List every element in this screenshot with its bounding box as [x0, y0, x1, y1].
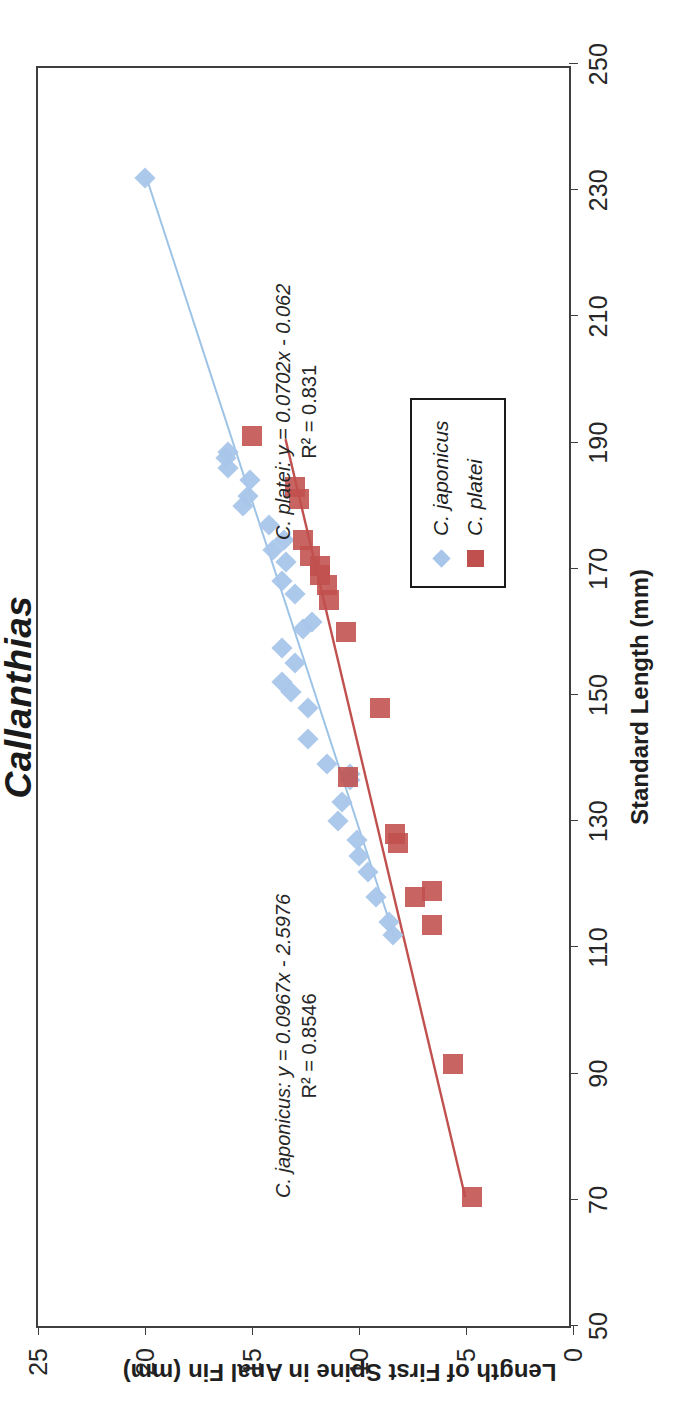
- x-tick-label: 50: [584, 1312, 613, 1340]
- legend[interactable]: C. japonicus C. platei: [410, 398, 506, 588]
- x-tick: [569, 442, 578, 443]
- y-tick: [466, 1326, 467, 1335]
- x-tick: [569, 694, 578, 695]
- x-axis-title: Standard Length (mm): [626, 66, 654, 1328]
- data-point-square: [385, 824, 405, 844]
- chart-page: Callanthias Length of First Spine in Ana…: [0, 0, 685, 1424]
- y-tick-label: 5: [452, 1348, 481, 1362]
- square-marker-icon: [467, 546, 484, 572]
- x-tick: [569, 1073, 578, 1074]
- x-tick-label: 90: [584, 1060, 613, 1088]
- annotation-platei-line2: R² = 0.831: [296, 284, 322, 540]
- y-tick: [145, 1326, 146, 1335]
- diamond-marker-icon: [435, 546, 448, 572]
- y-tick-label: 10: [345, 1348, 374, 1376]
- y-tick: [252, 1326, 253, 1335]
- x-tick-label: 150: [584, 674, 613, 716]
- legend-label-japonicus: C. japonicus: [429, 420, 453, 536]
- data-point-square: [443, 1054, 463, 1074]
- y-tick: [573, 1326, 574, 1335]
- y-axis-title-holder: Length of First Spine in Anal Fin (mm): [36, 1386, 571, 1416]
- plot-inner: C. japonicus: y = 0.0967x - 2.5976 R² = …: [38, 68, 569, 1326]
- data-point-square: [422, 915, 442, 935]
- legend-label-platei: C. platei: [463, 459, 487, 536]
- y-tick: [38, 1326, 39, 1335]
- page-title: Callanthias: [0, 66, 40, 1328]
- annotation-japonicus-line2: R² = 0.8546: [296, 894, 322, 1198]
- x-tick-label: 230: [584, 169, 613, 211]
- data-point-square: [242, 426, 262, 446]
- y-tick: [359, 1326, 360, 1335]
- annotation-platei-line1: C. platei: y = 0.0702x - 0.062: [272, 284, 294, 540]
- x-tick-label: 250: [584, 43, 613, 85]
- x-tick-label: 210: [584, 295, 613, 337]
- x-tick: [569, 63, 578, 64]
- x-tick-label: 110: [584, 927, 613, 967]
- legend-item-platei[interactable]: C. platei: [458, 420, 492, 572]
- y-tick-label: 0: [559, 1348, 588, 1362]
- legend-item-japonicus[interactable]: C. japonicus: [424, 420, 458, 572]
- y-tick-label: 20: [131, 1348, 160, 1376]
- data-point-square: [336, 622, 356, 642]
- x-tick-label: 70: [584, 1186, 613, 1214]
- data-point-square: [338, 767, 358, 787]
- x-tick: [569, 189, 578, 190]
- x-tick-label: 190: [584, 421, 613, 463]
- data-point-square: [370, 698, 390, 718]
- x-tick: [569, 1199, 578, 1200]
- rotated-page-wrapper: Callanthias Length of First Spine in Ana…: [0, 0, 685, 1424]
- x-tick: [569, 946, 578, 947]
- annotation-platei: C. platei: y = 0.0702x - 0.062 R² = 0.83…: [270, 284, 323, 540]
- annotation-japonicus-line1: C. japonicus: y = 0.0967x - 2.5976: [272, 894, 294, 1198]
- x-tick-label: 130: [584, 800, 613, 842]
- x-tick: [569, 820, 578, 821]
- plot-area: C. japonicus: y = 0.0967x - 2.5976 R² = …: [36, 66, 571, 1328]
- data-point-square: [462, 1187, 482, 1207]
- y-tick-label: 15: [238, 1348, 267, 1376]
- x-tick-label: 170: [584, 548, 613, 590]
- data-point-square: [422, 881, 442, 901]
- x-tick: [569, 568, 578, 569]
- y-tick-label: 25: [24, 1348, 53, 1376]
- annotation-japonicus: C. japonicus: y = 0.0967x - 2.5976 R² = …: [270, 894, 323, 1198]
- x-tick: [569, 315, 578, 316]
